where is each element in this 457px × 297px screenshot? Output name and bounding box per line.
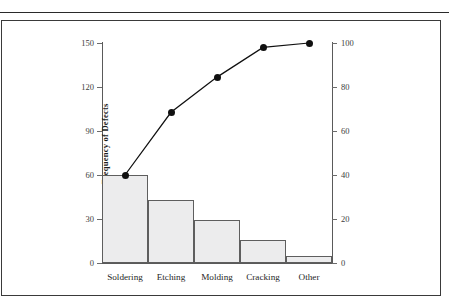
- right-tick-100: [332, 43, 337, 44]
- right-tick-label-20: 20: [341, 214, 367, 224]
- right-tick-60: [332, 131, 337, 132]
- right-tick-label-80: 80: [341, 82, 367, 92]
- chart-page: 150 120 90 60 30 0 100 80 60 40 20 0 Fre…: [0, 0, 457, 297]
- bottom-axis-line: [101, 263, 333, 264]
- x-label-other: Other: [269, 272, 349, 282]
- right-tick-20: [332, 219, 337, 220]
- right-tick-label-100: 100: [341, 38, 367, 48]
- right-axis-line: [332, 42, 333, 264]
- right-tick-label-0: 0: [341, 258, 367, 268]
- left-tick-label-30: 30: [68, 214, 94, 224]
- cumulative-point-other: [306, 40, 313, 47]
- right-tick-40: [332, 175, 337, 176]
- right-tick-label-60: 60: [341, 126, 367, 136]
- page-top-rule: [0, 12, 449, 13]
- left-tick-label-0: 0: [68, 258, 94, 268]
- right-tick-80: [332, 87, 337, 88]
- right-tick-label-40: 40: [341, 170, 367, 180]
- left-tick-label-150: 150: [68, 38, 94, 48]
- left-tick-label-120: 120: [68, 82, 94, 92]
- cumulative-point-etching: [168, 109, 175, 116]
- left-tick-label-60: 60: [68, 170, 94, 180]
- cumulative-point-soldering: [122, 172, 129, 179]
- cumulative-point-molding: [214, 74, 221, 81]
- left-tick-label-90: 90: [68, 126, 94, 136]
- cumulative-point-cracking: [260, 44, 267, 51]
- plot-area: Frequency of Defects Cumulative Frequenc…: [102, 43, 332, 263]
- right-tick-0: [332, 263, 337, 264]
- left-tick-0: [97, 263, 102, 264]
